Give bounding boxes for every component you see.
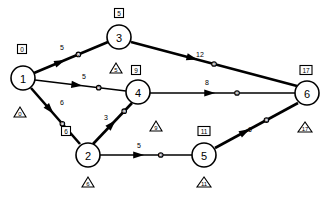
node-3[interactable]: 355 — [107, 9, 131, 74]
earliest-time-label: 11 — [201, 128, 208, 135]
latest-time-label: 17 — [302, 126, 309, 132]
edge-1-to-3[interactable]: 05 — [34, 42, 108, 73]
edge-line — [34, 42, 108, 73]
edge-weight-label: 5 — [60, 44, 64, 51]
edge-2-to-4[interactable]: 03 — [93, 103, 132, 144]
node-number-label: 5 — [201, 150, 207, 162]
edge-arrowhead-icon — [133, 151, 144, 158]
node-1[interactable]: 100 — [11, 45, 35, 118]
earliest-time-label: 0 — [20, 46, 24, 53]
edge-dot-label: 0 — [265, 117, 268, 123]
edge-weight-label: 3 — [104, 114, 108, 121]
edge-5-to-6[interactable]: 06 — [215, 103, 298, 148]
earliest-time-label: 5 — [117, 10, 121, 17]
node-number-label: 6 — [304, 88, 310, 100]
edge-line — [31, 88, 80, 144]
edge-arrowhead-icon — [54, 57, 67, 68]
edge-dot-label: 0 — [236, 90, 239, 96]
node-4[interactable]: 499 — [126, 66, 162, 132]
edge-arrowhead-icon — [204, 89, 215, 96]
edge-weight-label: 6 — [248, 126, 252, 133]
edge-dot-label: 0 — [159, 152, 162, 158]
edges-layer: 05050601208030506 — [31, 42, 298, 159]
node-number-label: 4 — [135, 87, 141, 99]
edge-dot-label: 0 — [77, 51, 80, 57]
edge-weight-label: 5 — [137, 142, 141, 149]
node-2[interactable]: 266 — [62, 127, 101, 188]
edge-dot-label: 0 — [61, 121, 64, 127]
edge-dot-label: 0 — [213, 61, 216, 67]
node-number-label: 1 — [20, 73, 26, 85]
nodes-layer: 1002663554995111161717 — [11, 9, 319, 188]
node-6[interactable]: 61717 — [295, 66, 319, 133]
node-number-label: 3 — [116, 32, 122, 44]
node-5[interactable]: 51111 — [192, 127, 216, 188]
earliest-time-label: 6 — [64, 128, 68, 135]
node-number-label: 2 — [85, 150, 91, 162]
edge-dot-label: 0 — [123, 108, 126, 114]
edge-line — [215, 103, 298, 148]
edge-weight-label: 12 — [196, 51, 204, 58]
network-svg: 050506012080305061002663554995111161717 — [0, 0, 332, 201]
edge-weight-label: 5 — [82, 73, 86, 80]
earliest-time-label: 9 — [134, 67, 138, 74]
edge-weight-label: 6 — [60, 99, 64, 106]
latest-time-label: 11 — [201, 181, 208, 187]
edge-2-to-5[interactable]: 05 — [100, 142, 192, 159]
edge-dot-label: 0 — [97, 85, 100, 91]
edge-weight-label: 8 — [205, 79, 209, 86]
edge-4-to-6[interactable]: 08 — [150, 79, 295, 97]
edge-3-to-6[interactable]: 012 — [131, 42, 297, 86]
edge-1-to-2[interactable]: 06 — [31, 88, 80, 144]
edge-1-to-4[interactable]: 05 — [35, 73, 126, 91]
earliest-time-label: 17 — [302, 67, 310, 74]
network-diagram-canvas: 050506012080305061002663554995111161717 — [0, 0, 332, 201]
